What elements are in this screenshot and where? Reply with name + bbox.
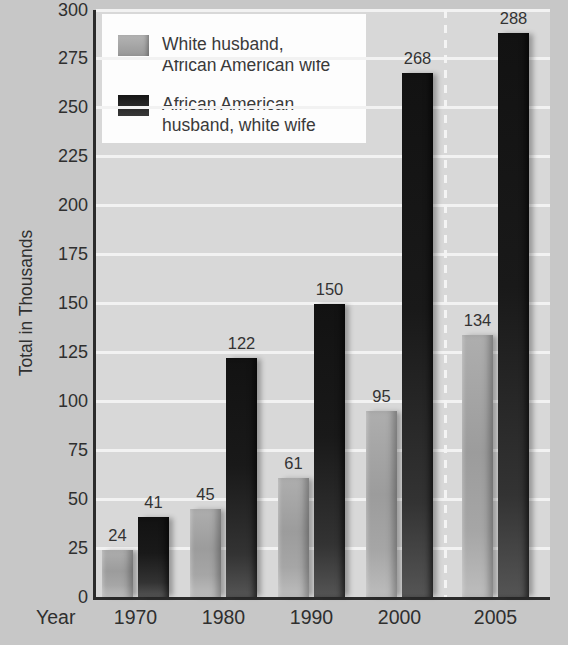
gridline: [96, 204, 550, 207]
gridline: [96, 9, 550, 12]
bar-2000-series0: [366, 411, 397, 597]
gridline: [96, 253, 550, 256]
bar-1990-series1: [314, 304, 345, 598]
x-tick-label-2000: 2000: [378, 606, 421, 629]
y-tick-label-50: 50: [30, 489, 88, 510]
bar-value-label: 61: [284, 454, 302, 473]
bar-value-label: 95: [372, 387, 390, 406]
bar-1980-series1: [226, 358, 257, 597]
legend-item-label: White husband, African American wife: [162, 34, 330, 76]
x-tick-label-1980: 1980: [202, 606, 245, 629]
legend-item-white-husband: White husband, African American wife: [118, 34, 356, 76]
legend-label-line1: White husband,: [162, 34, 284, 54]
gridline: [96, 155, 550, 158]
legend-label-line2: husband, white wife: [162, 115, 316, 135]
y-tick-label-175: 175: [30, 244, 88, 265]
x-tick-label-1970: 1970: [114, 606, 157, 629]
bar-value-label: 288: [500, 9, 528, 28]
y-tick-label-150: 150: [30, 293, 88, 314]
x-axis-line: [93, 597, 550, 600]
period-separator-dashed-line: [444, 10, 447, 597]
y-tick-label-75: 75: [30, 440, 88, 461]
bar-chart-figure: Total in Thousands Year White husband, A…: [0, 0, 568, 645]
bar-value-label: 24: [108, 526, 126, 545]
gridline: [96, 106, 550, 109]
y-axis-line: [93, 10, 96, 600]
bar-value-label: 41: [144, 493, 162, 512]
y-tick-label-25: 25: [30, 538, 88, 559]
bar-1970-series0: [102, 550, 133, 597]
x-axis-title: Year: [36, 606, 75, 629]
bar-1990-series0: [278, 478, 309, 597]
legend-swatch-light-icon: [118, 35, 149, 56]
legend-label-line1: African American: [162, 94, 294, 114]
y-tick-label-300: 300: [30, 0, 88, 21]
bar-value-label: 150: [316, 280, 344, 299]
y-tick-label-275: 275: [30, 48, 88, 69]
bar-value-label: 268: [404, 49, 432, 68]
legend-item-label: African American husband, white wife: [162, 94, 316, 136]
legend: White husband, African American wife Afr…: [102, 14, 366, 143]
bar-value-label: 134: [464, 311, 492, 330]
bar-value-label: 122: [228, 334, 256, 353]
gridline: [96, 57, 550, 60]
x-tick-label-2005: 2005: [474, 606, 517, 629]
y-tick-label-225: 225: [30, 146, 88, 167]
bar-2005-series0: [462, 335, 493, 597]
y-tick-label-100: 100: [30, 391, 88, 412]
bar-1970-series1: [138, 517, 169, 597]
legend-item-african-american-husband: African American husband, white wife: [118, 94, 356, 136]
y-tick-label-0: 0: [30, 587, 88, 608]
bar-1980-series0: [190, 509, 221, 597]
bar-2000-series1: [402, 73, 433, 597]
y-tick-label-250: 250: [30, 97, 88, 118]
y-tick-label-125: 125: [30, 342, 88, 363]
bar-value-label: 45: [196, 485, 214, 504]
y-tick-label-200: 200: [30, 195, 88, 216]
x-tick-label-1990: 1990: [290, 606, 333, 629]
bar-2005-series1: [498, 33, 529, 597]
